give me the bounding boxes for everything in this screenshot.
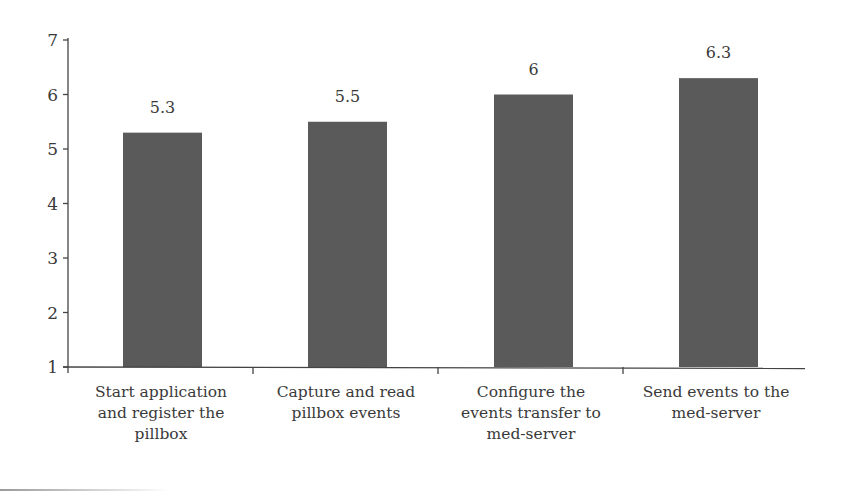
category-label: Start applicationand register thepillbox: [95, 383, 227, 443]
y-tick-label: 1: [47, 357, 58, 377]
y-tick-label: 6: [47, 85, 58, 105]
bar-4: [679, 78, 758, 367]
y-tick-label: 7: [47, 30, 58, 50]
y-axis: 1234567: [47, 30, 68, 377]
bar-value-label: 6: [528, 60, 538, 79]
bar-2: [308, 122, 387, 367]
bar-chart: 5.35.566.3 1234567 Start applicationand …: [0, 0, 848, 496]
category-label: Send events to themed-server: [643, 383, 790, 422]
bar-value-label: 6.3: [706, 43, 731, 62]
category-labels-group: Start applicationand register thepillbox…: [95, 383, 789, 443]
y-tick-label: 4: [47, 194, 58, 214]
bar-1: [123, 133, 202, 367]
y-tick-label: 2: [47, 303, 58, 323]
x-axis-line: [63, 367, 805, 369]
value-labels-group: 5.35.566.3: [150, 43, 731, 117]
page-bottom-rule: [0, 489, 170, 491]
x-axis: [63, 367, 805, 374]
y-tick-label: 5: [47, 139, 58, 159]
category-label: Configure theevents transfer tomed-serve…: [461, 383, 601, 443]
bar-value-label: 5.3: [150, 98, 175, 117]
bar-3: [494, 95, 573, 368]
category-label: Capture and readpillbox events: [277, 383, 416, 422]
bar-value-label: 5.5: [335, 87, 360, 106]
bars-group: [123, 78, 758, 367]
y-tick-label: 3: [47, 248, 58, 268]
